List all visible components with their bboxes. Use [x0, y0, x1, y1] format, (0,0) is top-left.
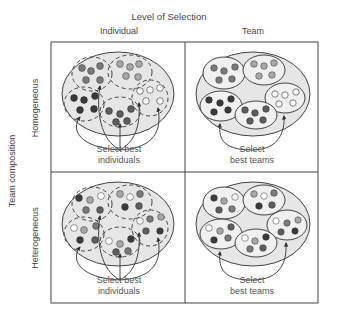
caption-line-2: best teams — [197, 155, 307, 166]
caption-line-1: Select best — [64, 275, 174, 286]
cell-homogeneous-team — [196, 52, 310, 150]
caption-line-1: Select — [197, 144, 307, 155]
caption-line-1: Select — [197, 275, 307, 286]
caption-homogeneous-team: Select best teams — [197, 144, 307, 166]
caption-homogeneous-individual: Select best individuals — [64, 144, 174, 166]
caption-line-2: best teams — [197, 286, 307, 297]
caption-heterogeneous-individual: Select best individuals — [64, 275, 174, 297]
caption-line-2: individuals — [64, 286, 174, 297]
cell-homogeneous-individual — [62, 52, 174, 150]
caption-line-1: Select best — [64, 144, 174, 155]
cell-heterogeneous-team — [196, 182, 310, 280]
cell-heterogeneous-individual — [62, 182, 174, 280]
caption-heterogeneous-team: Select best teams — [197, 275, 307, 297]
caption-line-2: individuals — [64, 155, 174, 166]
